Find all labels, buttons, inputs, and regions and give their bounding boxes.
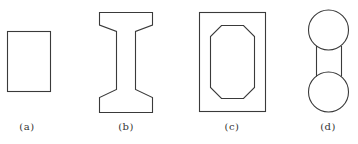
label-c: (c) — [225, 121, 240, 132]
cross-section-figure — [0, 0, 358, 144]
label-a: (a) — [19, 121, 34, 132]
section-b-i-beam — [100, 13, 153, 113]
outer-box — [200, 13, 266, 112]
section-c-box — [200, 13, 266, 112]
bottom-circle — [309, 72, 349, 112]
label-d: (d) — [320, 121, 336, 132]
top-circle — [309, 10, 349, 50]
section-a-rectangle — [8, 32, 51, 92]
label-b: (b) — [118, 121, 134, 132]
section-d-dumbbell — [309, 10, 349, 112]
octagonal-void — [211, 26, 255, 99]
